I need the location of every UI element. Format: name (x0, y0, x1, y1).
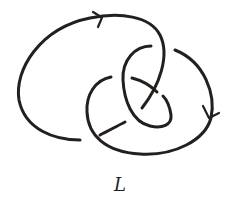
arrow-right-icon (93, 12, 102, 27)
knot-strand-middle-dash (132, 78, 157, 92)
knot-label: L (110, 174, 130, 195)
knot-strand-bottom-sweep (87, 50, 212, 154)
knot-strand-lower-dash (100, 122, 125, 135)
